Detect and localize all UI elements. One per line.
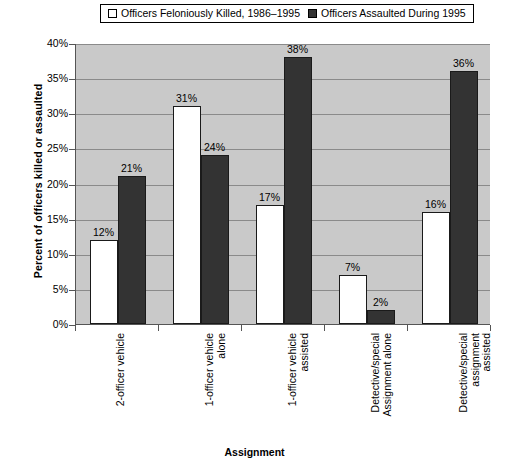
bar-killed[interactable]: 7% xyxy=(339,44,367,324)
x-category-label: 1-officer vehiclealone xyxy=(204,333,227,453)
bar-fill xyxy=(118,176,146,324)
x-category-label: 2-officer vehicle xyxy=(115,333,127,453)
x-category-label: 1-officer vehicleassisted xyxy=(287,333,310,453)
bar-fill xyxy=(367,310,395,324)
x-category-label-line: Assignment alone xyxy=(381,333,393,453)
chart-page: Officers Feloniously Killed, 1986–1995 O… xyxy=(0,0,509,472)
legend-label-assaulted: Officers Assaulted During 1995 xyxy=(321,8,466,19)
bar-assaulted[interactable]: 2% xyxy=(367,44,395,324)
bar-fill xyxy=(284,57,312,324)
x-tick-mark xyxy=(407,325,408,331)
x-category-label-line: Detective/special xyxy=(370,333,382,453)
bar-assaulted[interactable]: 21% xyxy=(118,44,146,324)
y-tick-label: 35% xyxy=(32,72,68,84)
y-tick-label: 25% xyxy=(32,142,68,154)
x-tick-mark xyxy=(75,325,76,331)
bar-killed[interactable]: 17% xyxy=(256,44,284,324)
bar-value-label: 38% xyxy=(287,43,308,55)
bar-killed[interactable]: 12% xyxy=(90,44,118,324)
bar-assaulted[interactable]: 38% xyxy=(284,44,312,324)
x-tick-mark xyxy=(241,325,242,331)
x-axis-title: Assignment xyxy=(0,446,509,458)
bar-value-label: 36% xyxy=(453,57,474,69)
y-tick-label: 30% xyxy=(32,107,68,119)
x-category-label-line: 2-officer vehicle xyxy=(115,333,127,453)
bar-value-label: 16% xyxy=(425,198,446,210)
bar-fill xyxy=(201,155,229,324)
x-category-label-line: assisted xyxy=(481,333,493,453)
y-tick-label: 40% xyxy=(32,37,68,49)
y-tick-label: 5% xyxy=(32,283,68,295)
bar-value-label: 31% xyxy=(176,92,197,104)
x-category-label-line: 1-officer vehicle xyxy=(287,333,299,453)
bar-fill xyxy=(256,205,284,324)
x-category-label-line: assisted xyxy=(298,333,310,453)
x-category-label: Detective/specialAssignment alone xyxy=(370,333,393,453)
x-category-label: Detective/specialassignmentassisted xyxy=(458,333,493,453)
legend-entry-killed: Officers Feloniously Killed, 1986–1995 xyxy=(106,8,302,19)
bar-assaulted[interactable]: 36% xyxy=(450,44,478,324)
bar-fill xyxy=(339,275,367,324)
bar-group: 12%21% xyxy=(90,44,146,324)
legend-entry-assaulted: Officers Assaulted During 1995 xyxy=(306,8,468,19)
x-category-label-line: alone xyxy=(215,333,227,453)
legend-swatch-killed-icon xyxy=(108,9,117,18)
bar-value-label: 17% xyxy=(259,191,280,203)
y-tick-label: 0% xyxy=(32,318,68,330)
bar-value-label: 2% xyxy=(373,296,388,308)
bar-fill xyxy=(450,71,478,324)
bar-group: 7%2% xyxy=(339,44,395,324)
plot-area: 12%21%31%24%17%38%7%2%16%36% xyxy=(75,44,490,325)
legend-label-killed: Officers Feloniously Killed, 1986–1995 xyxy=(121,8,300,19)
bar-fill xyxy=(173,106,201,324)
bar-killed[interactable]: 31% xyxy=(173,44,201,324)
bar-assaulted[interactable]: 24% xyxy=(201,44,229,324)
bar-killed[interactable]: 16% xyxy=(422,44,450,324)
bar-fill xyxy=(90,240,118,324)
bar-group: 31%24% xyxy=(173,44,229,324)
bar-fill xyxy=(422,212,450,324)
chart-legend: Officers Feloniously Killed, 1986–1995 O… xyxy=(100,4,474,23)
x-tick-mark xyxy=(490,325,491,331)
bar-value-label: 7% xyxy=(345,261,360,273)
bar-group: 16%36% xyxy=(422,44,478,324)
bar-value-label: 21% xyxy=(121,162,142,174)
bar-value-label: 24% xyxy=(204,141,225,153)
legend-swatch-assaulted-icon xyxy=(308,9,317,18)
x-tick-mark xyxy=(324,325,325,331)
bar-group: 17%38% xyxy=(256,44,312,324)
x-tick-mark xyxy=(158,325,159,331)
bar-value-label: 12% xyxy=(93,226,114,238)
y-tick-label: 20% xyxy=(32,178,68,190)
y-tick-label: 10% xyxy=(32,248,68,260)
y-tick-label: 15% xyxy=(32,213,68,225)
x-category-label-line: 1-officer vehicle xyxy=(204,333,216,453)
